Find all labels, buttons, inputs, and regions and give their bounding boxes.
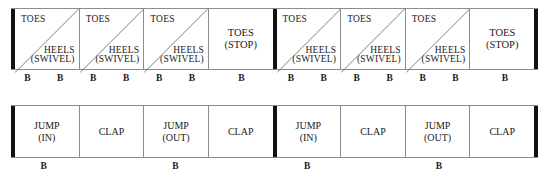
cell-label-lower-line2: (SWIVEL) [95,55,139,65]
cell-label-center: CLAP [470,106,534,157]
measure-cell-split[interactable]: TOES HEELS(SWIVEL) [144,9,209,69]
cell-label-line2: (IN) [38,132,55,144]
cell-label-center: CLAP [80,106,144,157]
beat-half: B B B B B B B [275,70,539,90]
cell-label-lower-line1: HEELS [370,45,401,55]
step-notation-chart: TOES HEELS(SWIVEL) TOES HEELS(SWIVEL) TO… [0,0,549,193]
beat-marker-strip: B B B B B B B B B [11,70,538,90]
cell-label-lower-line1: HEELS [173,45,204,55]
beat-marker: B [304,161,311,171]
beat-group: B [143,158,209,178]
beat-group: B [209,70,275,90]
beat-marker: B [57,73,64,83]
beat-marker: B [156,73,163,83]
beat-marker: B [172,161,179,171]
beat-marker: B [189,73,196,83]
measure-cell-split[interactable]: TOES HEELS(SWIVEL) [80,9,145,69]
cell-label-upper: TOES [347,15,371,25]
beat-group: B B [275,70,341,90]
measure-cell-clap[interactable]: CLAP [80,106,145,157]
cell-label-line1: JUMP [425,120,451,132]
measure-cell-jump[interactable]: JUMP (OUT) [144,106,209,157]
beat-marker: B [452,73,459,83]
cell-label-lower: HEELS(SWIVEL) [95,46,139,65]
beat-marker: B [354,73,361,83]
cell-label-lower-line2: (SWIVEL) [292,55,336,65]
beat-half: B B B B B B B [11,70,275,90]
phrase-half: TOES HEELS(SWIVEL) TOES HEELS(SWIVEL) TO… [11,9,273,69]
cell-label-line2: (OUT) [162,132,189,144]
cell-label-center: CLAP [341,106,405,157]
cell-label-lower: HEELS(SWIVEL) [31,46,75,65]
cell-label-lower-line1: HEELS [435,45,466,55]
measure-cell-clap[interactable]: CLAP [470,106,534,157]
cell-label-line1: TOES [228,27,254,39]
cell-label-center: CLAP [209,106,273,157]
cell-label-center: JUMP (IN) [277,106,341,157]
beat-group: B B [11,70,77,90]
cell-label-lower: HEELS(SWIVEL) [422,46,466,65]
cell-label-line2: (STOP) [486,39,518,51]
cell-label-center: JUMP (IN) [15,106,79,157]
cell-label-lower-line2: (SWIVEL) [31,55,75,65]
beat-marker: B [386,73,393,83]
cell-label-line1: CLAP [99,126,125,138]
cell-label-center: TOES (STOP) [209,9,273,69]
beat-half: B B [275,158,539,178]
measure-cell-stop[interactable]: TOES (STOP) [209,9,273,69]
beat-marker: B [502,73,509,83]
measure-cell-split[interactable]: TOES HEELS(SWIVEL) [277,9,342,69]
cell-label-line2: (STOP) [224,39,256,51]
beat-group-empty [209,158,275,178]
cell-label-line1: CLAP [228,126,254,138]
cell-label-center: TOES (STOP) [470,9,534,69]
cell-label-lower: HEELS(SWIVEL) [292,46,336,65]
cell-label-lower-line1: HEELS [109,45,140,55]
cell-label-center: JUMP (OUT) [406,106,470,157]
measure-cell-split[interactable]: TOES HEELS(SWIVEL) [15,9,80,69]
beat-marker: B [321,73,328,83]
measure-cell-jump[interactable]: JUMP (OUT) [406,106,471,157]
measure-cell-jump[interactable]: JUMP (IN) [15,106,80,157]
cell-label-center: JUMP (OUT) [144,106,208,157]
beat-group: B [11,158,77,178]
cell-label-upper: TOES [283,15,307,25]
phrase-half: TOES HEELS(SWIVEL) TOES HEELS(SWIVEL) TO… [273,9,539,69]
measure-cell-clap[interactable]: CLAP [209,106,273,157]
beat-marker: B [123,73,130,83]
cell-label-line1: JUMP [296,120,322,132]
beat-marker: B [90,73,97,83]
cell-label-line1: JUMP [163,120,189,132]
beat-group: B [406,158,472,178]
beat-marker: B [41,161,48,171]
measure-cell-jump[interactable]: JUMP (IN) [277,106,342,157]
measure-strip: TOES HEELS(SWIVEL) TOES HEELS(SWIVEL) TO… [11,8,538,70]
cell-label-lower-line2: (SWIVEL) [357,55,401,65]
beat-marker: B [24,73,31,83]
cell-label-lower-line2: (SWIVEL) [160,55,204,65]
cell-label-line2: (IN) [300,132,317,144]
cell-label-line1: CLAP [360,126,386,138]
beat-half: B B [11,158,275,178]
beat-marker-strip: B B B B [11,158,538,178]
cell-label-lower: HEELS(SWIVEL) [357,46,401,65]
beat-group: B [472,70,538,90]
beat-marker: B [419,73,426,83]
cell-label-lower-line1: HEELS [44,45,75,55]
beat-marker: B [436,161,443,171]
cell-label-lower-line2: (SWIVEL) [422,55,466,65]
measure-cell-split[interactable]: TOES HEELS(SWIVEL) [406,9,471,69]
cell-label-lower: HEELS(SWIVEL) [160,46,204,65]
measure-cell-split[interactable]: TOES HEELS(SWIVEL) [341,9,406,69]
phrase-half: JUMP (IN) CLAP JUMP (OUT) [11,106,273,157]
measure-cell-clap[interactable]: CLAP [341,106,406,157]
beat-group: B B [340,70,406,90]
beat-marker: B [238,73,245,83]
cell-label-lower-line1: HEELS [306,45,337,55]
measure-cell-stop[interactable]: TOES (STOP) [470,9,534,69]
beat-group-empty [472,158,538,178]
beat-group-empty [77,158,143,178]
cell-label-upper: TOES [412,15,436,25]
beat-group-empty [340,158,406,178]
cell-label-upper: TOES [86,15,110,25]
